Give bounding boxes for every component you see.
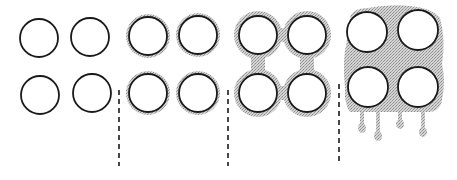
circle bbox=[239, 16, 277, 54]
drip-drop bbox=[419, 127, 427, 137]
circle bbox=[288, 74, 326, 112]
circle bbox=[239, 74, 277, 112]
drip-drop bbox=[396, 119, 404, 129]
drip-drop bbox=[358, 123, 366, 133]
circle bbox=[288, 16, 326, 54]
circle bbox=[129, 74, 167, 112]
circle bbox=[73, 74, 111, 112]
circle bbox=[21, 76, 59, 114]
circle bbox=[20, 19, 58, 57]
circle bbox=[348, 67, 388, 107]
wetting-diagram bbox=[0, 0, 457, 180]
circle bbox=[71, 18, 109, 56]
circle bbox=[398, 10, 438, 50]
circle bbox=[179, 16, 217, 54]
drip-drop bbox=[374, 131, 382, 141]
circle bbox=[179, 74, 217, 112]
circle bbox=[398, 67, 438, 107]
circle bbox=[347, 12, 387, 52]
circle bbox=[129, 17, 167, 55]
